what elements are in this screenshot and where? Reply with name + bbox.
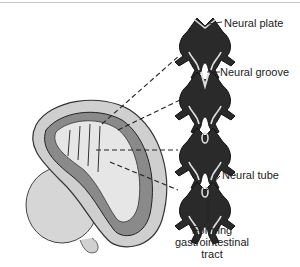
label-neural-groove: Neural groove: [220, 66, 289, 78]
label-gi-line3: tract: [170, 248, 254, 260]
label-gi-tract: Forming gastrointestinal tract: [170, 224, 254, 260]
label-neural-tube: Neural tube: [222, 169, 279, 181]
embryo-illustration: [26, 100, 167, 253]
label-gi-line1: Forming: [170, 224, 254, 236]
label-neural-plate: Neural plate: [224, 17, 283, 29]
label-gi-line2: gastrointestinal: [170, 236, 254, 248]
cross-section-neural-groove: [175, 72, 235, 134]
diagram-canvas: [0, 0, 300, 267]
umbilical-stalk: [80, 238, 98, 253]
